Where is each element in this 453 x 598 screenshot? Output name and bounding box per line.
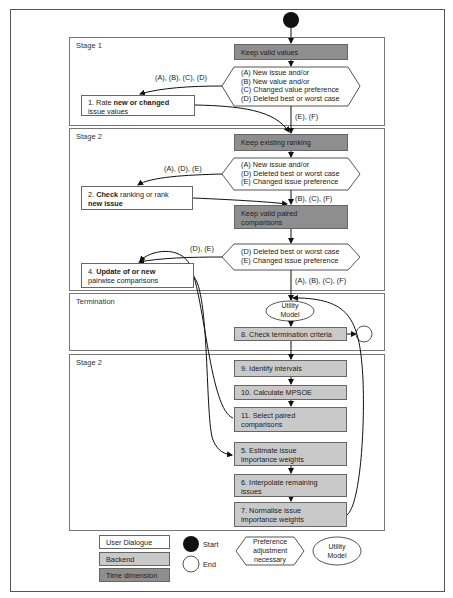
update-pairwise-node: 4. Update of or new pairwise comparisons: [81, 263, 194, 288]
rate-values-node: 1. Rate new or changed issue values: [81, 95, 195, 116]
box2-bold-new-issue: new issue: [88, 199, 123, 208]
select-paired-node: 11. Select paired comparisons: [234, 407, 347, 432]
keep-valid-values-node: Keep valid values: [234, 44, 348, 60]
hexagon-1-text: (A) New issue and/or (B) New value and/o…: [241, 69, 340, 103]
edge-label-hex1-left: (A), (B), (C), (D): [155, 73, 207, 82]
box6-line2: issues: [241, 487, 340, 496]
normalise-weights-node: 7. Normalise issue importance weights: [234, 502, 347, 527]
check-ranking-node: 2. Check ranking or rank new issue: [81, 186, 193, 210]
edge-label-hex2-down: (B), (C), (F): [295, 194, 332, 203]
legend-end-icon: [183, 556, 199, 572]
keep-existing-ranking-node: Keep existing ranking: [234, 134, 348, 151]
edge-label-hex2-left: (A), (D), (E): [164, 164, 202, 173]
legend-backend-label: Backend: [106, 555, 134, 564]
legend-preference-line1: Preference: [242, 537, 298, 546]
hex1-line-d: (D) Deleted best or worst case: [241, 95, 340, 104]
legend-start-icon: [183, 536, 199, 552]
keep-valid-paired-line1: Keep valid paired: [241, 209, 341, 218]
box5-line1: 5. Estimate issue: [241, 446, 340, 455]
box1-bold: new or changed: [114, 98, 170, 107]
utility-model-line2: Model: [266, 311, 314, 320]
keep-valid-paired-line2: comparisons: [241, 218, 341, 227]
legend-preference-line2: adjustment: [242, 546, 298, 555]
check-termination-node: 8. Check termination criteria: [234, 327, 347, 341]
box11-line1: 11. Select paired: [241, 411, 340, 420]
box9-label: 9. Identify intervals: [241, 364, 302, 373]
legend-time-dimension: Time dimension: [99, 568, 170, 582]
legend-preference-line3: necessary: [242, 555, 298, 564]
utility-model-line1: Utility: [266, 302, 314, 311]
legend-utility-label: Utility Model: [313, 542, 361, 560]
hex2-line-e: (E) Changed issue preference: [241, 178, 340, 187]
box1-prefix: 1. Rate: [88, 98, 114, 107]
box8-label: 8. Check termination criteria: [241, 330, 332, 339]
hexagon-2-text: (A) New issue and/or (D) Deleted best or…: [241, 161, 340, 187]
legend-time-dimension-label: Time dimension: [106, 571, 157, 580]
box10-label: 10. Calculate MPSOE: [241, 388, 312, 397]
edge-label-hex3-left: (D), (E): [190, 244, 214, 253]
box2-prefix: 2.: [88, 190, 96, 199]
box11-line2: comparisons: [241, 420, 340, 429]
box6-line1: 6. Interpolate remaining: [241, 478, 340, 487]
edge-label-hex3-down: (A), (B), (C), (F): [295, 276, 346, 285]
box4-prefix: 4.: [88, 267, 96, 276]
legend-utility-line1: Utility: [313, 542, 361, 551]
start-node-icon: [283, 12, 299, 28]
box5-line2: importance weights: [241, 455, 340, 464]
box4-bold: Update of or new: [96, 267, 155, 276]
legend-end-label: End: [203, 560, 216, 569]
keep-existing-ranking-label: Keep existing ranking: [241, 138, 311, 147]
box7-line2: importance weights: [241, 515, 340, 524]
box2-middle: ranking or rank: [118, 190, 169, 199]
box2-bold-check: Check: [96, 190, 118, 199]
box4-suffix: pairwise comparisons: [88, 276, 187, 285]
box1-suffix: issue values: [88, 107, 188, 116]
edge-label-hex1-down: (E), (F): [295, 112, 318, 121]
legend-user-dialogue: User Dialogue: [99, 535, 170, 549]
estimate-weights-node: 5. Estimate issue importance weights: [234, 442, 347, 466]
identify-intervals-node: 9. Identify intervals: [234, 360, 347, 377]
utility-model-label: Utility Model: [266, 302, 314, 319]
legend-utility-line2: Model: [313, 551, 361, 560]
legend-preference-label: Preference adjustment necessary: [242, 537, 298, 564]
calculate-mpsoe-node: 10. Calculate MPSOE: [234, 385, 347, 400]
interpolate-issues-node: 6. Interpolate remaining issues: [234, 474, 347, 497]
keep-valid-values-label: Keep valid values: [241, 48, 298, 57]
hexagon-3-text: (D) Deleted best or worst case (E) Chang…: [241, 248, 340, 265]
keep-valid-paired-node: Keep valid paired comparisons: [234, 205, 348, 229]
legend-user-dialogue-label: User Dialogue: [106, 538, 152, 547]
box7-line1: 7. Normalise issue: [241, 506, 340, 515]
legend-backend: Backend: [99, 552, 170, 566]
connectors-layer: [0, 0, 453, 598]
legend-start-label: Start: [203, 540, 218, 549]
hex3-line-e: (E) Changed issue preference: [241, 257, 340, 266]
